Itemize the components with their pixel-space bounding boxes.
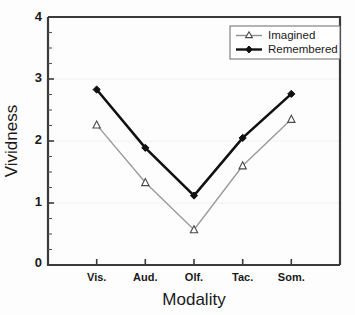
x-tick-label-tac: Tac.	[232, 271, 253, 283]
y-tick-label-0: 0	[35, 255, 42, 270]
y-tick-label-4: 4	[35, 9, 43, 24]
x-tick-label-som: Som.	[278, 271, 305, 283]
chart-legend: Imagined Remembered	[230, 26, 340, 59]
x-tick-label-vis: Vis.	[87, 271, 106, 283]
y-tick-label-2: 2	[35, 132, 42, 147]
x-tick-label-aud: Aud.	[133, 271, 157, 283]
legend-label-remembered: Remembered	[268, 43, 338, 55]
legend-label-imagined: Imagined	[268, 29, 315, 41]
line-chart: 4 3 2 1 0 Vis. Aud. Olf. Tac. Som. Modal…	[0, 0, 355, 315]
x-tick-label-olf: Olf.	[185, 271, 203, 283]
chart-figure: 4 3 2 1 0 Vis. Aud. Olf. Tac. Som. Modal…	[0, 0, 355, 315]
y-axis-title: Vividness	[2, 105, 21, 177]
y-tick-label-1: 1	[35, 194, 42, 209]
x-axis-title: Modality	[162, 290, 226, 309]
y-tick-label-3: 3	[35, 70, 42, 85]
